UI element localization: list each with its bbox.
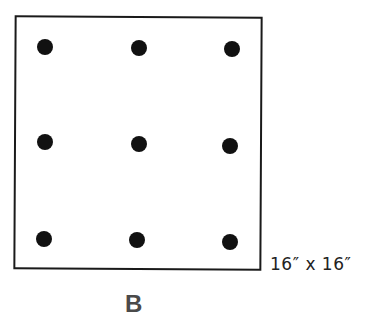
dimension-label: 16″ x 16″ xyxy=(270,254,351,274)
dot-r3-c2 xyxy=(129,232,145,248)
dot-r1-c1 xyxy=(37,39,53,55)
dot-r2-c2 xyxy=(131,136,147,152)
dot-r1-c3 xyxy=(224,41,240,57)
dot-r2-c3 xyxy=(222,138,238,154)
dot-r3-c1 xyxy=(36,231,52,247)
dot-r2-c1 xyxy=(37,134,53,150)
dot-r3-c3 xyxy=(222,234,238,250)
figure-label: B xyxy=(125,290,142,318)
dot-r1-c2 xyxy=(131,40,147,56)
